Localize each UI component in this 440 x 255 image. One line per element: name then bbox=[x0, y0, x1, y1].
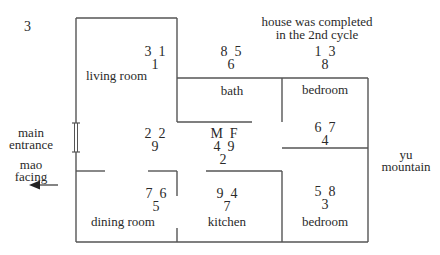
bedroom-east-star-base: 4 bbox=[320, 134, 330, 148]
kitchen-label: kitchen bbox=[207, 215, 247, 228]
facing-label-line2: facing bbox=[8, 170, 54, 183]
dining-room-star-base: 5 bbox=[151, 200, 161, 214]
bedroom-north-label: bedroom bbox=[290, 83, 360, 96]
completion-note-line2: in the 2nd cycle bbox=[232, 28, 402, 41]
bath-star-base: 6 bbox=[226, 58, 236, 72]
bedroom-north-star-base: 8 bbox=[320, 58, 330, 72]
sitting-label-line2: mountain bbox=[376, 160, 436, 173]
main-entrance-label-line2: entrance bbox=[0, 138, 62, 151]
bath-label: bath bbox=[212, 84, 252, 97]
bedroom-south-star-base: 3 bbox=[320, 198, 330, 212]
center-star-base: 2 bbox=[218, 153, 228, 167]
living-room-label: living room bbox=[86, 69, 147, 82]
door-icon bbox=[72, 123, 80, 152]
living-room-star-base: 1 bbox=[150, 58, 160, 72]
hall-star-base: 9 bbox=[150, 140, 160, 154]
figure-number: 3 bbox=[24, 20, 31, 33]
kitchen-star-base: 7 bbox=[222, 200, 232, 214]
dining-room-label: dining room bbox=[91, 215, 155, 228]
bedroom-south-label: bedroom bbox=[290, 215, 360, 228]
